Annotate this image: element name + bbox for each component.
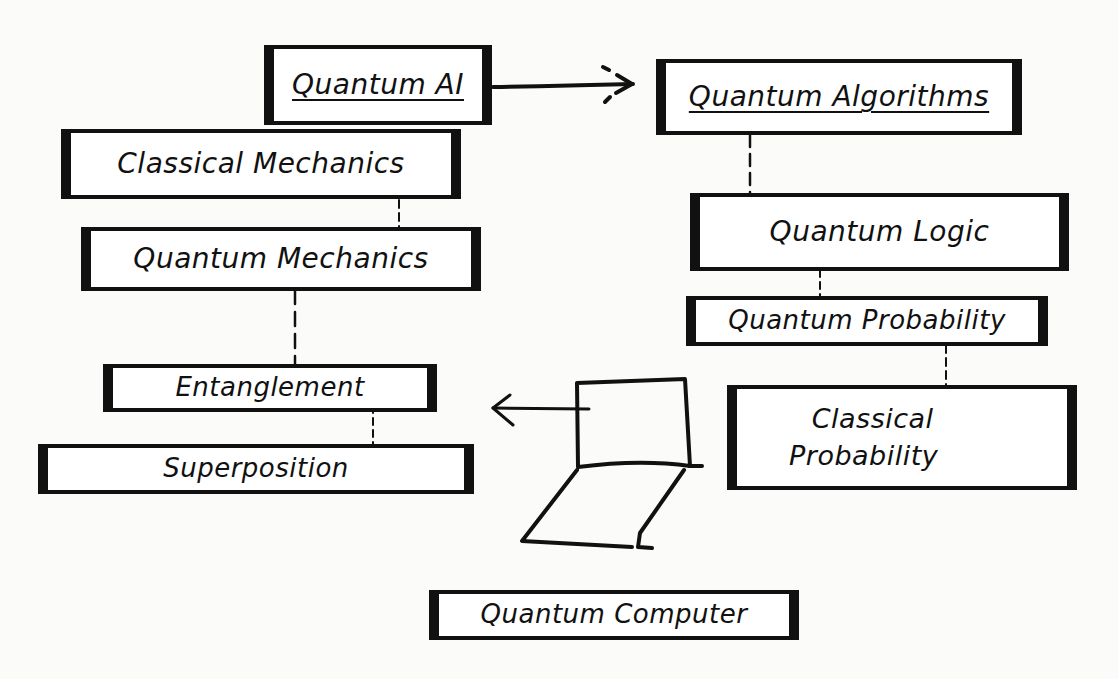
node-quantum-computer[interactable]: Quantum Computer <box>429 590 799 640</box>
node-label-line-1: Classical <box>789 401 938 437</box>
node-classical-probability[interactable]: Classical Probability <box>727 385 1077 490</box>
node-label: Classical Mechanics <box>117 147 404 181</box>
node-quantum-algorithms[interactable]: Quantum Algorithms <box>656 59 1022 135</box>
node-quantum-logic[interactable]: Quantum Logic <box>690 193 1069 271</box>
node-label: Superposition <box>163 453 349 484</box>
node-classical-mechanics[interactable]: Classical Mechanics <box>61 129 461 199</box>
node-label-line-2: Probability <box>789 438 938 474</box>
node-label: Entanglement <box>175 372 364 403</box>
node-label: Quantum Computer <box>481 599 748 630</box>
node-quantum-mechanics[interactable]: Quantum Mechanics <box>81 227 481 291</box>
node-entanglement[interactable]: Entanglement <box>103 364 437 412</box>
node-label: Quantum AI <box>292 68 464 102</box>
arrow-ai-to-algorithms <box>493 67 633 102</box>
node-label: Quantum Probability <box>728 305 1006 336</box>
node-label: Quantum Mechanics <box>133 242 428 276</box>
node-quantum-probability[interactable]: Quantum Probability <box>686 296 1048 346</box>
node-quantum-ai[interactable]: Quantum AI <box>264 45 492 125</box>
node-label: Quantum Logic <box>770 215 990 249</box>
node-label: Classical Probability <box>789 401 938 474</box>
node-label: Quantum Algorithms <box>689 80 989 114</box>
arrow-laptop-to-entanglement <box>493 395 589 425</box>
node-superposition[interactable]: Superposition <box>38 444 474 494</box>
laptop-icon <box>522 379 702 548</box>
